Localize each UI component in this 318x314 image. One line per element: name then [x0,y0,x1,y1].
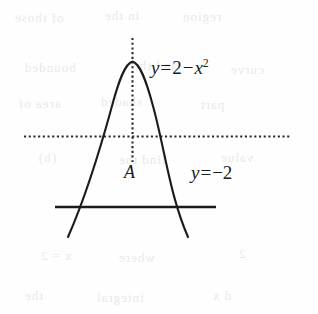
parabola-curve [68,62,188,238]
curve-equation-variable: x [194,57,202,78]
point-a-label: A [124,163,135,181]
hline-equation-value: −2 [212,162,232,183]
curve-equation-constant: 2 [172,57,182,78]
curve-equation-minus: − [182,57,195,78]
hline-equation-equals: = [199,162,212,183]
figure-container: of thosein theregionboundedand thecurvea… [0,0,318,314]
graph-sketch-svg [0,0,318,314]
curve-equation-equals: = [159,57,172,78]
curve-equation-exponent: 2 [203,57,209,70]
horizontal-line-equation-label: y=−2 [191,163,232,182]
curve-equation-label: y=2−x2 [151,58,209,77]
